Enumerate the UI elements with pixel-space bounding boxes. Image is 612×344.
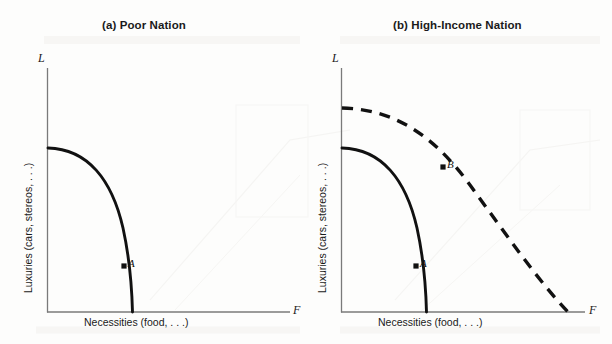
panel-b-title: (b) High-Income Nation — [393, 19, 522, 31]
panel-a-x-axis-caption: Necessities (food, . . .) — [84, 316, 188, 328]
plot-layer — [0, 0, 612, 344]
panel-a-y-axis-caption: Luxuries (cars, stereos, . . .) — [22, 163, 34, 293]
panel-b-original-ppf-curve — [342, 148, 427, 312]
panel-b-axes — [341, 68, 585, 313]
panel-b-x-axis-caption: Necessities (food, . . .) — [378, 316, 482, 328]
panel-b-y-axis-letter: L — [332, 51, 339, 66]
panel-a-title: (a) Poor Nation — [102, 19, 186, 31]
ppf-figure: (a) Poor Nation L F Luxuries (cars, ster… — [0, 0, 612, 344]
panel-a-point-a — [121, 263, 126, 268]
panel-a-y-axis-letter: L — [38, 51, 45, 66]
panel-a-ppf-curve — [48, 148, 133, 312]
panel-b-x-axis-letter: F — [589, 303, 596, 318]
panel-b-y-axis-caption: Luxuries (cars, stereos, . . .) — [316, 163, 328, 293]
panel-b-point-b-label: B — [447, 158, 454, 170]
panel-a-x-axis-letter: F — [293, 303, 300, 318]
panel-b-point-a — [413, 263, 418, 268]
panel-b-point-b — [440, 164, 445, 169]
panel-b-point-a-label: A — [420, 257, 427, 269]
panel-a-point-a-label: A — [128, 257, 135, 269]
